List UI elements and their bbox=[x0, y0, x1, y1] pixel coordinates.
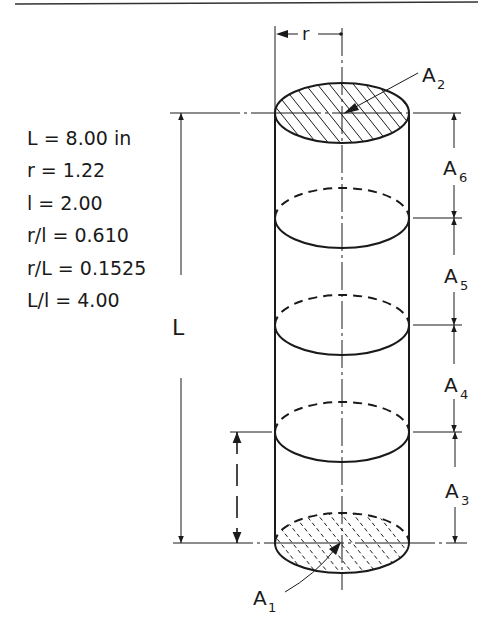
svg-text:A: A bbox=[445, 479, 459, 503]
param-L-over-l: L/l = 4.00 bbox=[27, 289, 120, 311]
area-label-A4: A 4 bbox=[444, 373, 468, 402]
parameter-list: L = 8.00 in r = 1.22 l = 2.00 r/l = 0.61… bbox=[27, 127, 146, 311]
svg-text:6: 6 bbox=[459, 170, 467, 185]
radius-dimension: r bbox=[275, 23, 343, 113]
svg-text:A: A bbox=[422, 63, 436, 87]
bottom-face bbox=[226, 490, 438, 590]
svg-text:A: A bbox=[253, 586, 267, 610]
param-l: l = 2.00 bbox=[27, 192, 103, 214]
param-r: r = 1.22 bbox=[27, 159, 105, 181]
length-label: L bbox=[172, 315, 185, 340]
param-r-over-l: r/l = 0.610 bbox=[27, 224, 129, 246]
svg-text:4: 4 bbox=[460, 387, 468, 402]
radius-label: r bbox=[302, 23, 310, 44]
svg-text:1: 1 bbox=[268, 600, 276, 615]
svg-text:3: 3 bbox=[461, 493, 469, 508]
length-dimension: L bbox=[172, 113, 185, 543]
svg-text:A: A bbox=[444, 264, 458, 288]
svg-text:2: 2 bbox=[437, 77, 445, 92]
area-label-A3: A 3 bbox=[445, 479, 469, 508]
area-label-A2: A 2 bbox=[343, 63, 445, 114]
cylinder-diagram: L = 8.00 in r = 1.22 l = 2.00 r/l = 0.61… bbox=[0, 0, 493, 626]
area-label-A6: A 6 bbox=[443, 156, 467, 185]
svg-text:5: 5 bbox=[460, 278, 468, 293]
area-label-A1: A 1 bbox=[253, 542, 341, 615]
page-top-rule bbox=[15, 2, 478, 4]
area-label-A5: A 5 bbox=[444, 264, 468, 293]
svg-text:A: A bbox=[443, 156, 457, 180]
svg-text:A: A bbox=[444, 373, 458, 397]
param-L: L = 8.00 in bbox=[27, 127, 131, 149]
param-r-over-L: r/L = 0.1525 bbox=[27, 257, 146, 279]
top-face bbox=[226, 60, 450, 160]
